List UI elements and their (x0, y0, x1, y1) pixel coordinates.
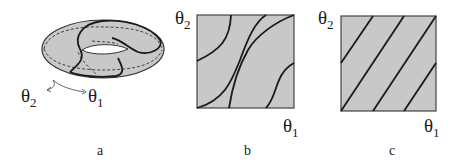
panel-a-caption: a (97, 144, 103, 158)
panel-b-theta1-label: θ1 (283, 116, 299, 139)
panel-a-theta2-label: θ2 (21, 86, 37, 109)
panel-c-theta2-label: θ2 (318, 8, 334, 31)
figure-canvas (0, 0, 458, 165)
square-c (341, 16, 436, 111)
square-b (197, 15, 294, 108)
panel-a-theta1-label: θ1 (88, 86, 104, 109)
torus (42, 20, 164, 94)
panel-c-caption: c (389, 144, 395, 158)
panel-b-theta2-label: θ2 (175, 8, 191, 31)
panel-b-caption: b (244, 144, 251, 158)
panel-c-theta1-label: θ1 (424, 116, 440, 139)
